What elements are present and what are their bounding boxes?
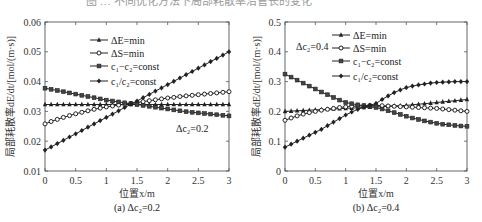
data-point-square [215, 113, 219, 117]
x-tick-label: 2.5 [430, 175, 443, 186]
data-point-circle [301, 112, 305, 116]
legend-label: ΔE=min [353, 30, 387, 41]
data-point-square [283, 72, 287, 76]
chart-b: 00.511.522.5300.10.20.30.40.5ΔE=minΔS=mi… [250, 17, 470, 215]
data-point-diamond [55, 141, 59, 146]
data-point-square [190, 110, 194, 114]
series-circle [43, 90, 231, 126]
data-point-square [104, 98, 108, 102]
data-point-circle [86, 109, 90, 113]
data-point-circle [153, 98, 157, 102]
data-point-square [465, 124, 469, 128]
data-point-square [453, 124, 457, 128]
data-point-circle [307, 111, 311, 115]
data-point-square [160, 106, 164, 110]
data-point-square [423, 119, 427, 123]
y-tick-label: 0.4 [269, 46, 282, 57]
data-point-diamond [331, 120, 335, 125]
data-point-circle [319, 108, 323, 112]
data-point-circle [104, 105, 108, 109]
data-point-diamond [386, 93, 390, 98]
y-tick-label: 0.05 [24, 46, 42, 57]
data-point-square [344, 101, 348, 105]
data-point-diamond [61, 138, 65, 143]
data-point-circle [392, 104, 396, 108]
data-point-square [147, 104, 151, 108]
data-point-circle [172, 95, 176, 99]
data-point-circle [447, 108, 451, 112]
legend-label: c₁/c₂=const [111, 76, 157, 87]
data-point-diamond [221, 53, 225, 58]
data-point-diamond [380, 97, 384, 102]
data-point-circle [92, 107, 96, 111]
data-point-square [221, 113, 225, 117]
x-tick-label: 1.5 [370, 175, 383, 186]
delta-c2-annotation: Δc₂=0.4 [296, 41, 329, 52]
data-point-circle [55, 117, 59, 121]
data-point-diamond [447, 79, 451, 84]
data-point-square [417, 118, 421, 122]
data-point-diamond [159, 85, 163, 90]
x-axis-label: 位置x/m [358, 187, 394, 199]
data-point-diamond [325, 123, 329, 128]
data-point-square [429, 120, 433, 124]
data-point-square [289, 75, 293, 79]
data-point-diamond [465, 79, 469, 84]
data-point-square [398, 113, 402, 117]
chart-a: 00.511.522.530.010.020.030.040.050.06ΔE=… [4, 17, 232, 215]
legend-label: ΔS=min [111, 48, 144, 59]
x-tick-label: 3 [465, 175, 470, 186]
data-point-square [98, 97, 102, 101]
data-point-diamond [208, 59, 212, 64]
x-tick-label: 1 [104, 175, 109, 186]
x-tick-label: 3 [227, 175, 232, 186]
legend-label: ΔE=min [111, 35, 145, 46]
data-point-square [55, 89, 59, 93]
data-point-circle [435, 106, 439, 110]
data-point-square [307, 84, 311, 88]
x-tick-label: 0.5 [309, 175, 322, 186]
data-point-circle [459, 109, 463, 113]
y-tick-label: 0.2 [269, 106, 282, 117]
legend: ΔE=minΔS=minc₁−c₂=constc₁/c₂=const [90, 35, 159, 87]
legend-label: c₁−c₂=const [111, 61, 159, 72]
data-point-square [178, 109, 182, 113]
data-point-circle [80, 110, 84, 114]
legend: ΔE=minΔS=minc₁−c₂=constc₁/c₂=const [332, 30, 401, 82]
data-point-square [203, 112, 207, 116]
y-tick-label: 0.04 [24, 76, 42, 87]
data-point-square [184, 110, 188, 114]
data-point-square [313, 87, 317, 91]
y-tick-label: 0.03 [24, 106, 42, 117]
data-point-square [435, 121, 439, 125]
data-point-circle [441, 107, 445, 111]
data-point-diamond [337, 116, 341, 121]
data-point-circle [453, 108, 457, 112]
data-point-diamond [110, 112, 114, 117]
x-tick-label: 2 [404, 175, 409, 186]
data-point-diamond [92, 121, 96, 126]
data-point-diamond [178, 75, 182, 80]
data-point-circle [417, 106, 421, 110]
data-point-square [320, 90, 324, 94]
data-point-square [392, 111, 396, 115]
data-point-square [380, 107, 384, 111]
data-point-square [123, 101, 127, 105]
legend-marker-diamond [339, 73, 343, 78]
data-point-circle [215, 91, 219, 95]
data-point-diamond [80, 128, 84, 133]
legend-label: c₁−c₂=const [353, 56, 401, 67]
subfigure-caption: (b) Δc₂=0.4 [353, 202, 400, 214]
data-point-square [350, 102, 354, 106]
data-point-square [356, 103, 360, 107]
data-point-circle [398, 105, 402, 109]
data-point-diamond [307, 133, 311, 138]
data-point-diamond [116, 108, 120, 113]
data-point-diamond [67, 134, 71, 139]
figure-canvas: 00.511.522.530.010.020.030.040.050.06ΔE=… [0, 0, 482, 222]
x-tick-label: 2.5 [192, 175, 205, 186]
data-point-diamond [141, 95, 145, 100]
data-point-square [411, 116, 415, 120]
data-point-circle [386, 104, 390, 108]
data-point-circle [326, 107, 330, 111]
